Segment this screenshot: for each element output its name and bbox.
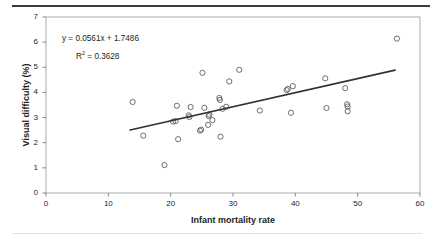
data-point [174, 103, 179, 108]
data-point [290, 84, 295, 89]
y-tick-label-5: 5 [20, 62, 38, 71]
y-tick-label-2: 2 [20, 138, 38, 147]
data-point [237, 67, 242, 72]
data-point [227, 79, 232, 84]
trend-line-segment [130, 70, 395, 130]
scatter-chart: Visual difficulty (%) Infant mortality r… [0, 0, 440, 239]
data-point [130, 99, 135, 104]
y-tick-label-1: 1 [20, 163, 38, 172]
figure-container: Visual difficulty (%) Infant mortality r… [0, 0, 440, 239]
data-point [288, 110, 293, 115]
data-point [284, 88, 289, 93]
data-point [162, 162, 167, 167]
x-tick-label-0: 0 [34, 199, 58, 208]
r-squared-annotation: R2 = 0.3628 [76, 50, 119, 61]
bottom-rule-divider [12, 233, 422, 234]
data-point [218, 134, 223, 139]
data-point [210, 117, 215, 122]
regression-equation-annotation: y = 0.0561x + 1.7486 [62, 34, 139, 43]
x-tick-label-30: 30 [221, 199, 245, 208]
y-axis-tick-marks [43, 17, 47, 193]
x-tick-label-50: 50 [346, 199, 370, 208]
data-point [257, 108, 262, 113]
x-axis-tick-marks [46, 193, 420, 197]
data-point [202, 105, 207, 110]
x-axis-label: Infant mortality rate [46, 215, 420, 225]
y-tick-label-3: 3 [20, 113, 38, 122]
data-point-group [130, 36, 400, 168]
y-tick-label-7: 7 [20, 12, 38, 21]
y-axis-label: Visual difficulty (%) [21, 35, 31, 175]
y-tick-label-6: 6 [20, 37, 38, 46]
data-point [176, 137, 181, 142]
plot-frame [46, 17, 420, 193]
y-tick-label-0: 0 [20, 188, 38, 197]
x-tick-label-40: 40 [283, 199, 307, 208]
x-tick-label-10: 10 [96, 199, 120, 208]
y-tick-label-4: 4 [20, 87, 38, 96]
r-squared-value: = 0.3628 [85, 52, 119, 61]
data-point [323, 76, 328, 81]
data-point [200, 70, 205, 75]
data-point [324, 105, 329, 110]
data-point [285, 86, 290, 91]
data-point [199, 127, 204, 132]
data-point [394, 36, 399, 41]
data-point [188, 104, 193, 109]
data-point [205, 122, 210, 127]
data-point [343, 86, 348, 91]
x-tick-label-20: 20 [159, 199, 183, 208]
x-tick-label-60: 60 [408, 199, 432, 208]
data-point [141, 133, 146, 138]
trend-line [130, 70, 395, 130]
